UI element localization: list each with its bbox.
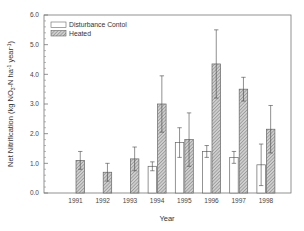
x-tick-label: 1995: [177, 197, 192, 204]
x-tick-label: 1991: [68, 197, 83, 204]
x-tick-label: 1998: [259, 197, 274, 204]
x-axis: 19911992199319941995199619971998: [68, 197, 273, 204]
y-axis: 0.01.02.03.04.05.06.0: [30, 11, 48, 196]
legend-swatch: [51, 22, 66, 28]
x-tick-label: 1996: [204, 197, 219, 204]
chart: 0.01.02.03.04.05.06.0 199119921993199419…: [0, 0, 304, 231]
legend-label: Disturbance Contol: [69, 21, 127, 28]
legend-label: Heated: [69, 30, 91, 37]
x-tick-label: 1994: [150, 197, 165, 204]
y-tick-label: 2.0: [30, 130, 39, 137]
legend: Disturbance ContolHeated: [51, 21, 127, 37]
x-tick-label: 1997: [231, 197, 246, 204]
legend-swatch: [51, 31, 66, 37]
y-tick-label: 0.0: [30, 189, 39, 196]
y-tick-label: 5.0: [30, 41, 39, 48]
x-tick-label: 1992: [95, 197, 110, 204]
bar-heated-1997: [239, 89, 248, 193]
y-tick-label: 3.0: [30, 100, 39, 107]
x-tick-label: 1993: [123, 197, 138, 204]
x-axis-title: Year: [159, 214, 175, 223]
y-tick-label: 6.0: [30, 11, 39, 18]
y-tick-label: 1.0: [30, 160, 39, 167]
y-tick-label: 4.0: [30, 71, 39, 78]
y-axis-title: Net Nitrification (kg NO3-N ha-1 year-1): [6, 41, 16, 167]
bars: [76, 30, 275, 193]
